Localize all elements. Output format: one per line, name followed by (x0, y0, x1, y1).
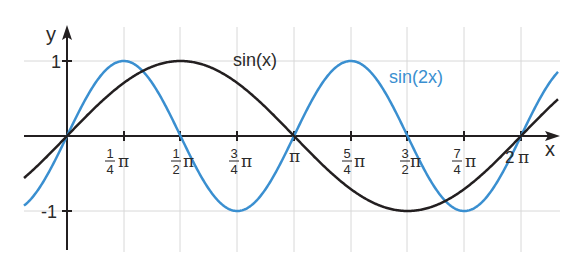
series-label-sin-2x: sin(2x) (389, 67, 443, 87)
svg-text:π: π (118, 151, 129, 171)
svg-text:π: π (410, 151, 421, 171)
svg-text:2: 2 (401, 162, 408, 177)
svg-text:2: 2 (505, 148, 514, 167)
svg-text:3: 3 (401, 146, 408, 161)
y-tick-label-1: 1 (51, 52, 61, 72)
svg-text:π: π (183, 151, 194, 171)
svg-text:1: 1 (172, 146, 179, 161)
svg-text:2: 2 (172, 162, 179, 177)
sine-chart: y x 1 -1 1 4 π 1 2 π 3 4 π π 5 4 π 3 2 π… (0, 0, 572, 258)
svg-text:4: 4 (343, 162, 350, 177)
svg-text:4: 4 (230, 162, 237, 177)
svg-text:5: 5 (343, 146, 350, 161)
x-axis-label: x (545, 138, 555, 160)
axes (24, 36, 550, 250)
svg-text:3: 3 (230, 146, 237, 161)
svg-text:π: π (289, 146, 300, 166)
x-tick-label-5-4-pi: 5 4 π (342, 146, 365, 177)
series-label-sin-x: sin(x) (233, 50, 277, 70)
svg-text:1: 1 (106, 146, 113, 161)
x-tick-label-1-2-pi: 1 2 π (171, 146, 194, 177)
y-tick-label-minus-1: -1 (41, 202, 57, 222)
x-tick-label-1-4-pi: 1 4 π (105, 146, 129, 177)
svg-text:4: 4 (106, 162, 113, 177)
x-tick-label-3-2-pi: 3 2 π (400, 146, 421, 177)
y-axis-label: y (46, 23, 56, 45)
svg-text:π: π (465, 151, 476, 171)
x-tick-label-2-pi: 2 π (505, 147, 529, 167)
svg-text:π: π (518, 147, 529, 167)
x-tick-label-pi: π (289, 146, 300, 166)
svg-text:4: 4 (453, 162, 460, 177)
svg-text:7: 7 (453, 146, 460, 161)
svg-text:π: π (241, 151, 252, 171)
svg-text:π: π (354, 151, 365, 171)
x-tick-label-3-4-pi: 3 4 π (229, 146, 252, 177)
